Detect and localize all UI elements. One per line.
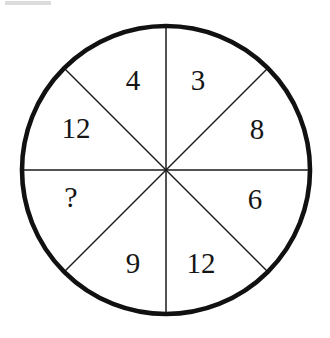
sector-label-left-upper: 12 [62, 114, 91, 143]
sector-label-bottom-left: 9 [126, 249, 141, 278]
sector-label-top-right: 3 [191, 66, 206, 95]
circle-puzzle-figure: 4 3 12 8 ? 6 9 12 [0, 0, 330, 338]
sector-label-right-lower: 6 [248, 185, 263, 214]
sector-label-bottom-right: 12 [187, 249, 216, 278]
sector-label-left-lower-unknown: ? [64, 182, 77, 212]
sector-label-right-upper: 8 [250, 115, 265, 144]
sector-label-top-left: 4 [126, 66, 141, 95]
circle-diagram-svg [0, 0, 330, 338]
spoke-diagonal-lower-left [64, 170, 166, 272]
